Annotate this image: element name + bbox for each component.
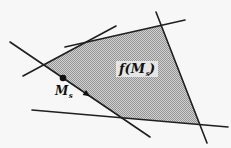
image-set-label-post: ) xyxy=(149,61,155,76)
point-label: Ms xyxy=(55,84,72,98)
point-label-subscript: s xyxy=(69,91,73,100)
point-label-main: M xyxy=(55,84,68,98)
image-set-label-subscript: s xyxy=(146,69,150,78)
figure: Ms f(Ms) xyxy=(0,0,231,148)
point-marker xyxy=(60,75,67,82)
image-set-label: f(Ms) xyxy=(116,61,158,77)
diagram-content xyxy=(10,12,228,143)
image-set-label-pre: f(M xyxy=(119,61,145,76)
